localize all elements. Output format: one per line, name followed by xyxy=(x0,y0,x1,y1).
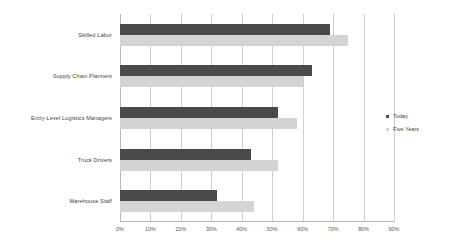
bar-today xyxy=(120,149,251,160)
bar-group xyxy=(120,107,394,131)
bar-group xyxy=(120,65,394,89)
bar-chart: Skilled LaborSupply Chain PlannersEntry-… xyxy=(0,0,454,249)
category-label: Truck Drivers xyxy=(0,156,112,163)
x-tick-label: 0% xyxy=(116,225,124,233)
bar-five-years xyxy=(120,160,278,171)
value-axis: 0%10%20%30%40%50%60%70%80%90% xyxy=(120,225,394,237)
legend-item[interactable]: Today xyxy=(386,110,450,123)
legend-label: Today xyxy=(393,113,408,120)
category-label: Warehouse Staff xyxy=(0,198,112,205)
category-axis: Skilled LaborSupply Chain PlannersEntry-… xyxy=(0,14,116,222)
bar-today xyxy=(120,190,217,201)
legend-item[interactable]: Five Years xyxy=(386,123,450,136)
category-label: Skilled Labor xyxy=(0,31,112,38)
bar-today xyxy=(120,24,330,35)
x-tick-label: 20% xyxy=(175,225,186,233)
chart-legend: TodayFive Years xyxy=(386,110,450,136)
category-label: Entry-Level Logistics Managers xyxy=(0,115,112,122)
x-tick-label: 30% xyxy=(206,225,217,233)
x-tick-label: 90% xyxy=(389,225,400,233)
x-tick-label: 50% xyxy=(267,225,278,233)
bar-group xyxy=(120,190,394,214)
legend-swatch-icon xyxy=(386,115,389,118)
bar-today xyxy=(120,65,312,76)
plot-area xyxy=(120,14,394,222)
legend-label: Five Years xyxy=(393,126,419,133)
axis-baseline xyxy=(120,221,394,222)
bar-today xyxy=(120,107,278,118)
category-label: Supply Chain Planners xyxy=(0,73,112,80)
x-tick-label: 60% xyxy=(297,225,308,233)
bar-five-years xyxy=(120,76,303,87)
legend-swatch-icon xyxy=(386,128,389,131)
bar-group xyxy=(120,149,394,173)
bar-five-years xyxy=(120,201,254,212)
bar-five-years xyxy=(120,118,297,129)
bar-group xyxy=(120,24,394,48)
bar-five-years xyxy=(120,35,348,46)
x-tick-label: 70% xyxy=(328,225,339,233)
x-tick-label: 80% xyxy=(358,225,369,233)
x-tick-label: 40% xyxy=(236,225,247,233)
x-tick-label: 10% xyxy=(145,225,156,233)
